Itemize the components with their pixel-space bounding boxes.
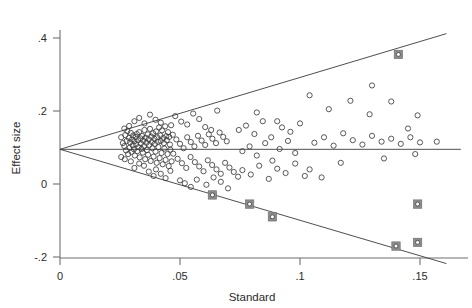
data-point xyxy=(338,160,343,165)
data-point xyxy=(227,165,232,170)
data-point xyxy=(151,173,156,178)
data-point xyxy=(369,83,374,88)
data-point xyxy=(163,124,168,129)
highlighted-data-point xyxy=(413,200,421,208)
data-point xyxy=(192,144,197,149)
data-point xyxy=(213,141,218,146)
data-point xyxy=(163,176,168,181)
highlighted-data-point xyxy=(413,238,421,246)
data-point xyxy=(191,111,196,116)
y-tick-marks xyxy=(53,38,60,257)
x-tick-label-0.05: .05 xyxy=(172,270,187,282)
data-point xyxy=(214,167,219,172)
data-point xyxy=(270,158,275,163)
plot-canvas: .4 .2 0 -.2 0 .05 .1 .15 Standard Effect… xyxy=(0,0,472,308)
data-point xyxy=(319,175,324,180)
highlighted-data-point xyxy=(268,213,276,221)
data-point xyxy=(188,154,193,159)
y-tick-labels: .4 .2 0 -.2 xyxy=(34,32,47,263)
data-point xyxy=(174,137,179,142)
x-tick-marks xyxy=(60,258,420,265)
data-point xyxy=(145,152,150,157)
x-tick-label-0.15: .15 xyxy=(412,270,427,282)
data-point xyxy=(192,160,197,165)
data-point xyxy=(215,108,220,113)
data-point xyxy=(210,162,215,167)
data-point xyxy=(408,135,413,140)
data-point xyxy=(185,135,190,140)
y-tick-label-neg0.2: -.2 xyxy=(34,251,47,263)
data-point xyxy=(197,116,202,121)
data-point xyxy=(177,141,182,146)
data-point xyxy=(307,93,312,98)
data-point xyxy=(279,125,284,130)
data-point xyxy=(285,138,290,143)
data-point xyxy=(307,167,312,172)
y-tick-label-0.2: .2 xyxy=(38,105,47,117)
data-point xyxy=(263,141,268,146)
data-point xyxy=(381,156,386,161)
data-point xyxy=(163,157,168,162)
highlighted-data-point xyxy=(394,50,402,58)
data-point xyxy=(360,142,365,147)
data-point xyxy=(252,131,257,136)
data-point xyxy=(188,184,193,189)
data-point xyxy=(157,155,162,160)
data-point xyxy=(369,133,374,138)
data-point xyxy=(348,98,353,103)
data-point xyxy=(210,136,215,141)
data-point xyxy=(389,136,394,141)
data-point xyxy=(225,186,230,191)
data-point xyxy=(182,181,187,186)
data-point xyxy=(167,142,172,147)
axes-group xyxy=(60,30,468,258)
data-point xyxy=(312,140,317,145)
data-point xyxy=(128,159,133,164)
data-point xyxy=(218,179,223,184)
data-point xyxy=(132,165,137,170)
data-point xyxy=(321,135,326,140)
x-tick-labels: 0 .05 .1 .15 xyxy=(57,270,428,282)
data-point xyxy=(248,172,253,177)
data-point xyxy=(184,165,189,170)
data-point xyxy=(194,177,199,182)
x-tick-label-0.1: .1 xyxy=(295,270,304,282)
y-tick-label-0: 0 xyxy=(41,178,47,190)
data-point xyxy=(151,154,156,159)
data-point xyxy=(283,170,288,175)
highlighted-data-point xyxy=(208,191,216,199)
data-point xyxy=(199,138,204,143)
funnel-plot-figure: .4 .2 0 -.2 0 .05 .1 .15 Standard Effect… xyxy=(0,0,472,308)
data-point xyxy=(235,174,240,179)
data-point xyxy=(243,123,248,128)
data-point xyxy=(175,156,180,161)
data-point xyxy=(201,169,206,174)
data-point xyxy=(171,151,176,156)
data-point xyxy=(158,171,163,176)
data-point xyxy=(413,151,418,156)
data-point xyxy=(221,134,226,139)
y-axis-title: Effect size xyxy=(10,122,22,175)
data-point xyxy=(169,123,174,128)
data-point xyxy=(206,132,211,137)
scatter-points xyxy=(119,83,440,191)
data-point xyxy=(179,161,184,166)
data-point xyxy=(275,119,280,124)
data-point xyxy=(288,129,293,134)
data-point xyxy=(158,120,163,125)
data-point xyxy=(326,107,331,112)
data-point xyxy=(203,124,208,129)
data-point xyxy=(293,161,298,166)
data-point xyxy=(415,113,420,118)
data-point xyxy=(203,142,208,147)
data-point xyxy=(231,169,236,174)
highlighted-data-point xyxy=(245,200,253,208)
data-point xyxy=(240,168,245,173)
data-point xyxy=(205,158,210,163)
data-point xyxy=(197,164,202,169)
data-point xyxy=(367,112,372,117)
data-point xyxy=(266,176,271,181)
data-point xyxy=(179,119,184,124)
data-point xyxy=(331,143,336,148)
data-point xyxy=(341,131,346,136)
